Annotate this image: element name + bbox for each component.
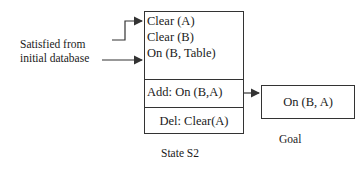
state-caption: State S2 [161,146,199,160]
delete-list: Del: Clear(A) [145,108,243,134]
precondition-clear-a: Clear (A) [145,13,243,29]
goal-box: On (B, A) [261,85,355,119]
arrow-to-clear-a [112,21,142,40]
precondition-on-b-table: On (B, Table) [145,45,243,61]
add-list: Add: On (B,A) [145,80,243,108]
annotation-line-1: Satisfied from [20,37,89,51]
state-s2-box: Clear (A) Clear (B) On (B, Table) Add: O… [144,11,244,134]
precondition-clear-b: Clear (B) [145,29,243,45]
preconditions-section: Clear (A) Clear (B) On (B, Table) [145,12,243,80]
annotation-label: Satisfied from initial database [20,37,89,65]
goal-caption: Goal [279,132,301,146]
annotation-line-2: initial database [20,51,89,65]
